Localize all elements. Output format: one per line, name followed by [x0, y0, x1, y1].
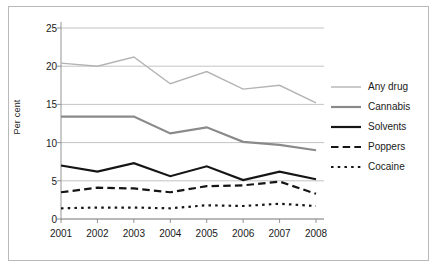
legend-item-cocaine[interactable]: Cocaine — [331, 157, 429, 177]
legend-swatch-icon — [331, 142, 361, 152]
legend-item-any-drug[interactable]: Any drug — [331, 77, 429, 97]
x-tick-label: 2007 — [268, 228, 290, 239]
x-tick-label: 2008 — [305, 228, 327, 239]
x-tick-label: 2005 — [196, 228, 218, 239]
legend-item-poppers[interactable]: Poppers — [331, 137, 429, 157]
legend-item-solvents[interactable]: Solvents — [331, 117, 429, 137]
x-tick-label: 2001 — [50, 228, 72, 239]
legend-item-cannabis[interactable]: Cannabis — [331, 97, 429, 117]
x-tick-label: 2004 — [159, 228, 181, 239]
x-tick-label: 2002 — [86, 228, 108, 239]
legend-swatch-icon — [331, 122, 361, 132]
chart-legend: Any drugCannabisSolventsPoppersCocaine — [331, 77, 429, 177]
legend-label: Any drug — [368, 82, 408, 92]
chart-frame: 0510152025 20012002200320042005200620072… — [8, 6, 429, 261]
legend-swatch-icon — [331, 82, 361, 92]
legend-label: Cannabis — [368, 102, 410, 112]
x-tick-label: 2003 — [123, 228, 145, 239]
x-tick-label: 2006 — [232, 228, 254, 239]
line-chart-figure: 0510152025 20012002200320042005200620072… — [9, 7, 430, 262]
y-axis-title: Per cent — [12, 87, 22, 147]
legend-label: Poppers — [368, 142, 405, 152]
legend-label: Cocaine — [368, 162, 405, 172]
legend-swatch-icon — [331, 102, 361, 112]
legend-swatch-icon — [331, 162, 361, 172]
legend-label: Solvents — [368, 122, 406, 132]
